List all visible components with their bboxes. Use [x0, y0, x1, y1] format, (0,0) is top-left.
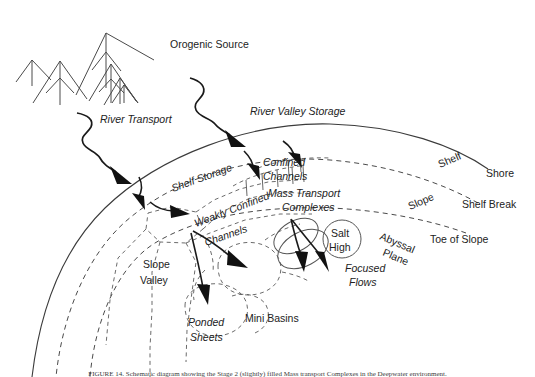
label-mass-transport-line1: Mass Transport [268, 187, 341, 199]
toe-of-slope-arc [90, 208, 466, 377]
arrow-focused-flow-left [291, 219, 308, 272]
label-salt-high-line2: High [329, 241, 351, 253]
arrow-to-shelf-storage-upper [132, 177, 145, 210]
label-slope-valley-line1: Slope [143, 258, 170, 270]
label-shore: Shore [486, 167, 514, 179]
label-slope: Slope [406, 190, 436, 212]
label-slope-valley-line2: Valley [140, 274, 169, 286]
label-river-transport: River Transport [100, 113, 173, 125]
arrow-to-shelf-storage-lower [150, 202, 190, 218]
label-focused-flows-line2: Flows [349, 276, 377, 288]
label-focused-flows-line1: Focused [345, 262, 386, 274]
figure-root: Orogenic Source River Transport River Va… [0, 0, 535, 377]
label-ponded-sheets-line1: Ponded [188, 316, 225, 328]
label-shelf-break: Shelf Break [462, 198, 517, 210]
label-shelf-storage: Shelf Storage [170, 161, 234, 194]
label-shelf: Shelf [436, 149, 463, 169]
arrow-to-confined-channels-a [244, 151, 260, 180]
mass-transport-lobes [268, 211, 335, 277]
mountain-range-icon [16, 33, 154, 105]
figure-caption: FIGURE 14. Schematic diagram showing the… [0, 370, 535, 377]
label-toe-of-slope: Toe of Slope [430, 233, 489, 245]
label-orogenic-source: Orogenic Source [170, 38, 249, 50]
label-weakly-confined-line2: Channels [203, 222, 250, 248]
label-confined-channels-line1: Confined [263, 156, 306, 168]
label-mass-transport-line2: Complexes [282, 201, 335, 213]
river-valley-storage-path [190, 78, 246, 147]
label-weakly-confined-line1: Weakly Confined [192, 189, 271, 229]
shore-arc [32, 124, 488, 377]
diagram-canvas: Orogenic Source River Transport River Va… [0, 0, 535, 377]
label-ponded-sheets-line2: Sheets [190, 331, 223, 343]
label-mini-basins: Mini Basins [245, 312, 299, 324]
label-confined-channels-line2: Channels [263, 170, 308, 182]
label-salt-high-line1: Salt [331, 227, 349, 239]
label-river-valley-storage: River Valley Storage [250, 105, 345, 117]
